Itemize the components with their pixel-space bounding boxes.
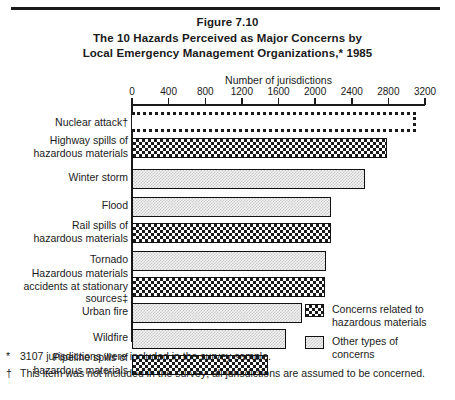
footnotes: *3107 jurisdictions were included in the… — [6, 350, 448, 383]
x-tick-label: 2800 — [377, 86, 399, 97]
legend-item: Concerns related to hazardous materials — [305, 303, 450, 328]
footnote-marker: * — [6, 350, 10, 364]
bar-category-label: Urban fire — [0, 305, 128, 318]
bar-category-label: Hazardous materials accidents at station… — [0, 267, 128, 305]
x-axis-tick-labels: 0400800120016002000240028003200 — [0, 86, 455, 98]
bar-category-label: Flood — [0, 199, 128, 212]
bar-hazard — [132, 223, 331, 243]
x-tick-label: 3200 — [414, 86, 436, 97]
bar-category-label: Tornado — [0, 253, 128, 266]
figure-container: Figure 7.10 The 10 Hazards Perceived as … — [0, 0, 455, 400]
footnote: *3107 jurisdictions were included in the… — [6, 350, 448, 364]
x-axis-title: Number of jurisdictions — [132, 74, 425, 86]
bar-other — [132, 329, 286, 349]
x-tick-label: 800 — [197, 86, 214, 97]
x-tick-label: 0 — [129, 86, 135, 97]
bar-category-label: Wildfire — [0, 331, 128, 344]
figure-title-line-2: Local Emergency Management Organizations… — [0, 46, 455, 61]
bar-category-label: Nuclear attack† — [0, 116, 128, 129]
bar-other — [132, 251, 326, 271]
legend-label: Concerns related to hazardous materials — [332, 303, 450, 328]
bar-hazard — [132, 277, 325, 297]
footnote: †This item was not included in the surve… — [6, 367, 448, 381]
x-tick-label: 2000 — [304, 86, 326, 97]
top-rule — [11, 7, 440, 10]
bar-other — [132, 303, 302, 323]
dotted-edge-bottom — [132, 129, 416, 132]
footnote-text: 3107 jurisdictions were included in the … — [20, 350, 271, 362]
bar-hazard — [132, 138, 387, 158]
figure-heading: Figure 7.10 The 10 Hazards Perceived as … — [0, 15, 455, 61]
legend-swatch-hazard — [305, 304, 324, 317]
legend-swatch-other — [305, 336, 324, 349]
footnote-text: This item was not included in the survey… — [20, 367, 425, 379]
x-tick-label: 2400 — [341, 86, 363, 97]
bar-other — [132, 169, 365, 189]
bar-category-label: Highway spills of hazardous materials — [0, 134, 128, 159]
figure-number: Figure 7.10 — [0, 15, 455, 31]
bar-other — [132, 197, 331, 217]
bar-category-label: Rail spills of hazardous materials — [0, 219, 128, 244]
bar-not-surveyed — [132, 112, 416, 132]
footnote-marker: † — [6, 367, 12, 381]
dotted-edge-top — [132, 112, 416, 115]
x-tick-label: 400 — [160, 86, 177, 97]
dotted-edge-right — [413, 112, 416, 132]
bar-category-label: Winter storm — [0, 171, 128, 184]
x-tick-label: 1600 — [267, 86, 289, 97]
figure-title-line-1: The 10 Hazards Perceived as Major Concer… — [0, 31, 455, 46]
x-tick-label: 1200 — [231, 86, 253, 97]
